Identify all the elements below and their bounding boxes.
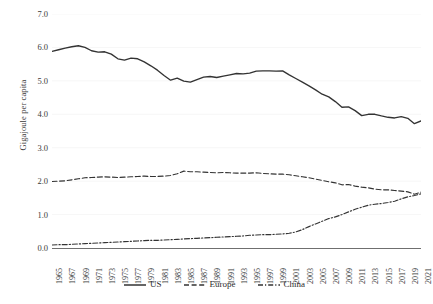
- x-tick-label: 1977: [134, 250, 143, 284]
- series-line-us: [52, 46, 421, 124]
- x-tick-label: 2021: [424, 250, 433, 284]
- x-tick-label: 1995: [253, 250, 262, 284]
- chart-legend: USEuropeChina: [0, 280, 429, 289]
- x-tick-label: 2007: [332, 250, 341, 284]
- x-tick-label: 2003: [306, 250, 315, 284]
- x-axis-line: [52, 248, 421, 249]
- x-tick-label: 1997: [266, 250, 275, 284]
- plot-area: [52, 14, 421, 248]
- x-tick-label: 2011: [358, 250, 367, 284]
- x-tick-label: 1967: [68, 250, 77, 284]
- x-tick-label: 1987: [200, 250, 209, 284]
- y-tick-label: 0.0: [22, 243, 48, 253]
- x-tick-label: 1993: [240, 250, 249, 284]
- y-tick-label: 7.0: [22, 9, 48, 19]
- x-tick-label: 2015: [385, 250, 394, 284]
- x-tick-label: 2017: [398, 250, 407, 284]
- x-tick-label: 2013: [371, 250, 380, 284]
- legend-swatch-china-icon: [258, 281, 280, 289]
- x-tick-label: 2005: [319, 250, 328, 284]
- legend-item-us[interactable]: US: [124, 280, 162, 289]
- x-tick-label: 1985: [187, 250, 196, 284]
- legend-item-europe[interactable]: Europe: [184, 280, 236, 289]
- y-tick-label: 5.0: [22, 76, 48, 86]
- legend-label: Europe: [210, 280, 236, 289]
- legend-swatch-us-icon: [124, 281, 146, 289]
- y-tick-label: 6.0: [22, 42, 48, 52]
- plot-svg: [52, 14, 421, 248]
- y-tick-label: 1.0: [22, 210, 48, 220]
- x-tick-label: 1965: [55, 250, 64, 284]
- legend-swatch-europe-icon: [184, 281, 206, 289]
- x-tick-label: 1969: [82, 250, 91, 284]
- x-tick-label: 1973: [108, 250, 117, 284]
- x-tick-label: 1971: [95, 250, 104, 284]
- legend-label: China: [284, 280, 306, 289]
- y-tick-label: 3.0: [22, 143, 48, 153]
- x-tick-label: 1981: [161, 250, 170, 284]
- x-tick-label: 2019: [411, 250, 420, 284]
- series-line-china: [52, 194, 421, 245]
- legend-item-china[interactable]: China: [258, 280, 306, 289]
- y-tick-label: 4.0: [22, 109, 48, 119]
- y-tick-label: 2.0: [22, 176, 48, 186]
- legend-label: US: [150, 280, 162, 289]
- x-tick-label: 2009: [345, 250, 354, 284]
- x-tick-label: 1975: [121, 250, 130, 284]
- series-line-europe: [52, 171, 421, 194]
- x-tick-label: 1983: [174, 250, 183, 284]
